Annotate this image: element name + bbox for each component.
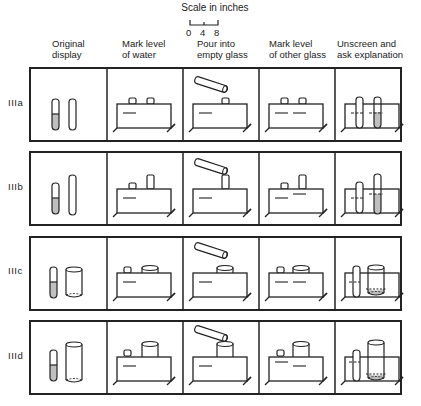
conservation-diagram <box>0 0 421 406</box>
